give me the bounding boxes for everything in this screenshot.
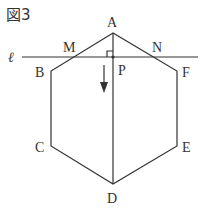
label-E: E — [182, 140, 191, 155]
label-C: C — [35, 140, 44, 155]
label-B: B — [35, 65, 44, 80]
label-P: P — [118, 63, 126, 78]
label-D: D — [107, 191, 117, 206]
hexagon-diagram: ℓ A B C D E F M N P — [0, 0, 199, 209]
label-M: M — [63, 40, 76, 55]
label-l: ℓ — [8, 49, 14, 65]
label-F: F — [182, 65, 190, 80]
arrow-down-icon — [100, 82, 108, 93]
label-N: N — [152, 40, 162, 55]
point-P-dot — [111, 55, 114, 58]
label-A: A — [107, 15, 118, 30]
hexagon-ABCDEF — [51, 33, 177, 184]
